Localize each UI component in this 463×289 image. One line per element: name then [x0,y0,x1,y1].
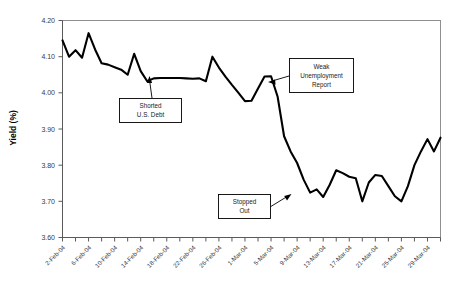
y-tick-label: 3.80 [41,162,55,169]
annotation-line-3: Report [312,81,331,89]
annotation-line-1: Weak [314,63,331,70]
x-axis-ticks [63,238,441,242]
y-tick-label: 4.10 [41,53,55,60]
x-tick-label: 10-Feb-04 [93,243,119,269]
yield-line-chart: Yield (%) 4.20 4.10 4.00 3.90 3.80 3.70 … [0,0,463,289]
annotation-stopped-out[interactable]: Stopped Out [219,194,292,219]
x-tick-label: 22-Feb-04 [171,243,197,269]
y-tick-label: 3.70 [41,198,55,205]
x-tick-label: 13-Mar-04 [302,243,328,269]
annotation-line-1: Shorted [139,102,162,109]
x-tick-label: 1-Mar-04 [226,243,249,266]
x-tick-label: 14-Feb-04 [119,243,145,269]
x-tick-label: 2-Feb-04 [44,243,67,266]
x-tick-label: 5-Mar-04 [252,243,275,266]
annotation-line-1: Stopped [233,198,257,206]
annotation-arrowhead [284,194,291,200]
x-axis-tick-labels: 2-Feb-046-Feb-0410-Feb-0414-Feb-0418-Feb… [44,243,432,269]
y-tick-label: 3.90 [41,126,55,133]
y-tick-label: 4.20 [41,17,55,24]
x-tick-label: 25-Mar-04 [380,243,406,269]
annotation-weak-unemployment-report[interactable]: Weak Unemployment Report [268,59,354,93]
x-tick-label: 21-Mar-04 [354,243,380,269]
annotation-line-2: Unemployment [300,72,343,80]
y-axis-tick-labels: 4.20 4.10 4.00 3.90 3.80 3.70 3.60 [41,17,55,241]
chart-screenshot: Yield (%) 4.20 4.10 4.00 3.90 3.80 3.70 … [0,0,463,289]
y-axis-title: Yield (%) [8,110,18,146]
x-tick-label: 26-Feb-04 [197,243,223,269]
x-tick-label: 18-Feb-04 [145,243,171,269]
x-tick-label: 9-Mar-04 [278,243,301,266]
x-tick-label: 6-Feb-04 [70,243,93,266]
annotation-line-2: Out [239,207,249,214]
annotation-line-2: U.S. Debt [137,111,165,118]
x-tick-label: 29-Mar-04 [406,243,432,269]
y-axis-ticks [59,21,63,238]
x-tick-label: 17-Mar-04 [328,243,354,269]
y-tick-label: 3.60 [41,234,55,241]
y-tick-label: 4.00 [41,89,55,96]
annotation-shorted-us-debt[interactable]: Shorted U.S. Debt [120,76,182,123]
